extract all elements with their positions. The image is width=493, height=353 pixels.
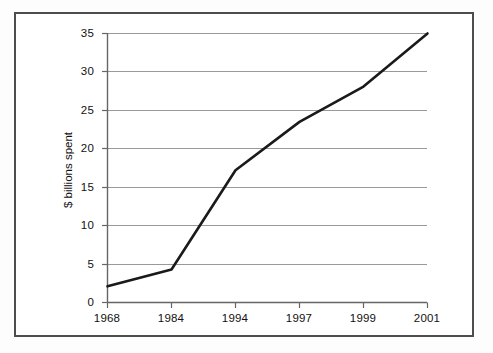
ytick-label-0: 0 (68, 296, 94, 308)
ytick-label-30: 30 (68, 65, 94, 77)
line-chart-plot (16, 14, 472, 335)
chart-figure: 35 30 25 20 15 10 5 0 1968 1984 1994 199… (0, 0, 493, 353)
x-tick-marks (108, 303, 428, 309)
y-tick-marks (102, 34, 107, 303)
y-axis-label: $ billions spent (62, 100, 74, 240)
xtick-label-1999: 1999 (341, 312, 385, 324)
xtick-label-2001: 2001 (405, 312, 449, 324)
xtick-label-1968: 1968 (85, 312, 129, 324)
gridlines (107, 34, 427, 265)
chart-frame: 35 30 25 20 15 10 5 0 1968 1984 1994 199… (14, 12, 474, 337)
xtick-label-1984: 1984 (149, 312, 193, 324)
xtick-label-1997: 1997 (277, 312, 321, 324)
xtick-label-1994: 1994 (213, 312, 257, 324)
ytick-label-5: 5 (68, 258, 94, 270)
ytick-label-35: 35 (68, 27, 94, 39)
